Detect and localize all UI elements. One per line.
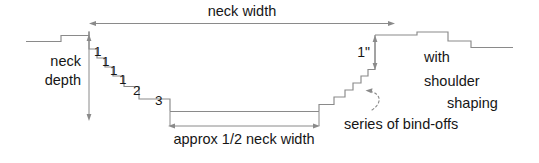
neck-depth-label-line2: depth xyxy=(45,72,81,88)
neck-width-label: neck width xyxy=(208,3,277,19)
one-inch-label: 1" xyxy=(357,44,370,60)
half-neck-width-label: approx 1/2 neck width xyxy=(173,131,314,147)
dimension-one-inch xyxy=(373,35,378,70)
decrease-step-label-6: 3 xyxy=(155,93,163,108)
bind-offs-callout-arrow xyxy=(366,88,380,110)
decrease-step-label-5: 2 xyxy=(133,83,141,98)
decrease-step-label-4: 1 xyxy=(119,72,127,87)
shoulder-shaping-label-line1: with xyxy=(423,49,450,65)
dimension-half-neck-width xyxy=(168,112,320,129)
neckline-shaping-diagram: neck width neck depth 1 1 1 1 2 3 approx… xyxy=(0,0,539,163)
shoulder-shaping-label-line2: shoulder xyxy=(424,73,480,89)
decrease-step-label-3: 1 xyxy=(110,63,118,78)
dimension-neck-depth xyxy=(87,34,92,121)
right-shoulder-outline xyxy=(375,32,513,48)
neckline-schematic-svg: neck width neck depth 1 1 1 1 2 3 approx… xyxy=(0,0,539,163)
shoulder-shaping-label-line3: shaping xyxy=(447,95,498,111)
neck-depth-label-line1: neck xyxy=(50,53,81,69)
left-shoulder-outline xyxy=(26,32,89,42)
decrease-step-label-2: 1 xyxy=(102,54,110,69)
decrease-step-label-1: 1 xyxy=(94,44,102,59)
dimension-neck-width xyxy=(89,21,395,26)
bind-offs-label: series of bind-offs xyxy=(344,116,458,132)
